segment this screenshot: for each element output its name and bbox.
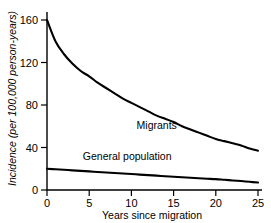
y-axis-ticks [41, 20, 47, 190]
y-tick-label: 160 [20, 14, 38, 26]
x-tick-label: 15 [167, 197, 179, 209]
y-tick-label: 80 [26, 99, 38, 111]
series-curve-general-population [47, 169, 258, 183]
x-tick-label: 0 [44, 197, 50, 209]
x-tick-label: 20 [210, 197, 222, 209]
incidence-chart-figure: 04080120160 0510152025 MigrantsGeneral p… [0, 0, 271, 223]
series-annotations: MigrantsGeneral population [83, 119, 177, 162]
chart-plot-area: 04080120160 0510152025 MigrantsGeneral p… [0, 0, 271, 223]
x-axis-tick-labels: 0510152025 [44, 197, 264, 209]
x-axis-ticks [47, 190, 258, 196]
x-tick-label: 5 [86, 197, 92, 209]
series-label-general-population: General population [83, 150, 172, 162]
y-tick-label: 0 [32, 184, 38, 196]
y-tick-label: 40 [26, 142, 38, 154]
x-tick-label: 25 [252, 197, 264, 209]
series-label-migrants: Migrants [137, 119, 177, 131]
axis-group [41, 12, 262, 196]
y-tick-label: 120 [20, 57, 38, 69]
x-tick-label: 10 [125, 197, 137, 209]
axis-lines [47, 12, 262, 190]
y-axis-tick-labels: 04080120160 [20, 14, 38, 196]
x-axis-title: Years since migration [102, 209, 202, 221]
y-axis-title: Incidence (per 100,000 person-years) [6, 11, 18, 186]
